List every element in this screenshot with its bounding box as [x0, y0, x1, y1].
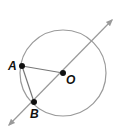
label-a: A: [8, 60, 17, 72]
diagram-svg: [0, 0, 121, 132]
point-b: [31, 99, 37, 105]
geometry-diagram: A O B: [0, 0, 121, 132]
label-b: B: [30, 108, 39, 120]
label-o: O: [66, 74, 75, 86]
segment-ab: [22, 66, 34, 102]
point-a: [19, 63, 25, 69]
segment-ao: [22, 66, 63, 73]
